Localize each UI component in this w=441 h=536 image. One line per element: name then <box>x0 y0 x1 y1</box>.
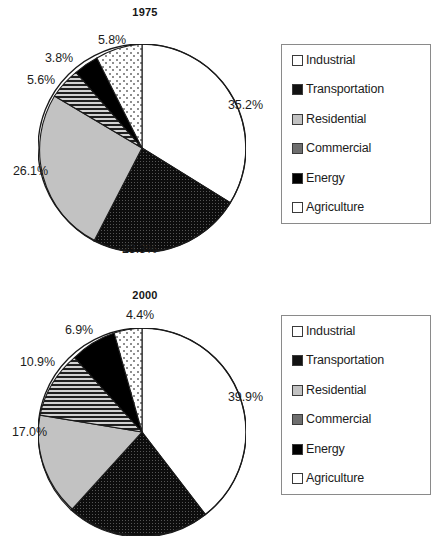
pie-graphic-2000 <box>38 328 246 536</box>
pie-svg-2000 <box>38 328 246 536</box>
slice-label-energy-1975: 3.8% <box>45 51 73 65</box>
legend-label-industrial: Industrial <box>306 325 355 338</box>
legend-swatch-energy-icon <box>292 444 303 455</box>
slice-label-agriculture-2000: 4.4% <box>126 308 154 322</box>
legend-swatch-agriculture-icon <box>292 473 303 484</box>
slice-label-transportation-1975: 23.3% <box>122 242 157 256</box>
legend-swatch-agriculture-icon <box>292 202 303 213</box>
legend-swatch-residential-icon <box>292 385 303 396</box>
legend-swatch-industrial-icon <box>292 55 303 66</box>
legend-swatch-transportation-icon <box>292 355 303 366</box>
legend-item-agriculture[interactable]: Agriculture <box>292 472 424 485</box>
legend-label-commercial: Commercial <box>306 142 371 155</box>
pie-graphic-1975 <box>38 44 246 252</box>
chart-title-2000: 2000 <box>0 289 290 301</box>
legend-label-transportation: Transportation <box>306 354 384 367</box>
legend-item-residential[interactable]: Residential <box>292 113 424 126</box>
slice-label-commercial-2000: 10.9% <box>20 355 55 369</box>
legend-item-commercial[interactable]: Commercial <box>292 413 424 426</box>
legend-swatch-commercial-icon <box>292 414 303 425</box>
legend-2000: Industrial Transportation Residential Co… <box>281 315 431 495</box>
legend-label-residential: Residential <box>306 113 366 126</box>
legend-label-transportation: Transportation <box>306 83 384 96</box>
legend-item-transportation[interactable]: Transportation <box>292 354 424 367</box>
chart-title-1975: 1975 <box>0 6 290 18</box>
slice-label-residential-2000: 17.0% <box>12 425 47 439</box>
slice-label-agriculture-1975: 5.8% <box>98 33 126 47</box>
slice-label-energy-2000: 6.9% <box>65 323 93 337</box>
legend-swatch-industrial-icon <box>292 326 303 337</box>
legend-label-energy: Energy <box>306 443 345 456</box>
legend-swatch-residential-icon <box>292 114 303 125</box>
legend-1975: Industrial Transportation Residential Co… <box>281 44 431 224</box>
legend-label-energy: Energy <box>306 172 345 185</box>
legend-item-transportation[interactable]: Transportation <box>292 83 424 96</box>
legend-label-agriculture: Agriculture <box>306 201 364 214</box>
legend-item-energy[interactable]: Energy <box>292 172 424 185</box>
pie-svg-1975 <box>38 44 246 252</box>
pie-chart-2000: 2000 <box>0 282 441 509</box>
legend-item-industrial[interactable]: Industrial <box>292 54 424 67</box>
slice-label-residential-1975: 26.1% <box>13 164 48 178</box>
legend-item-residential[interactable]: Residential <box>292 384 424 397</box>
legend-item-agriculture[interactable]: Agriculture <box>292 201 424 214</box>
slice-label-commercial-1975: 5.6% <box>27 73 55 87</box>
legend-swatch-energy-icon <box>292 173 303 184</box>
legend-swatch-transportation-icon <box>292 84 303 95</box>
legend-label-industrial: Industrial <box>306 54 355 67</box>
slice-label-industrial-1975: 35.2% <box>228 98 263 112</box>
legend-label-agriculture: Agriculture <box>306 472 364 485</box>
legend-item-energy[interactable]: Energy <box>292 443 424 456</box>
legend-item-industrial[interactable]: Industrial <box>292 325 424 338</box>
slice-label-industrial-2000: 39.9% <box>228 390 263 404</box>
pie-chart-1975: 1975 <box>0 0 441 280</box>
legend-label-commercial: Commercial <box>306 413 371 426</box>
legend-swatch-commercial-icon <box>292 143 303 154</box>
legend-item-commercial[interactable]: Commercial <box>292 142 424 155</box>
legend-label-residential: Residential <box>306 384 366 397</box>
